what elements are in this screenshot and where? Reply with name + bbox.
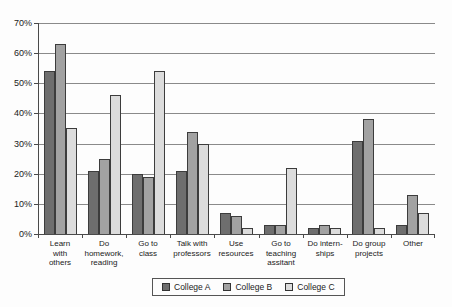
bar-college-a-learn-with-others bbox=[44, 71, 55, 234]
x-axis-label-use-resources: Useresources bbox=[211, 239, 261, 258]
legend-label: College C bbox=[297, 282, 334, 292]
x-axis-label-do-internships: Do intern-ships bbox=[300, 239, 350, 258]
x-axis-tick bbox=[170, 235, 171, 238]
bar-group-learn-with-others bbox=[38, 23, 82, 234]
x-axis-tick bbox=[303, 235, 304, 238]
bar-group-other bbox=[391, 23, 435, 234]
y-axis-tick-label: 40% bbox=[0, 109, 32, 118]
bar-college-c-go-to-teaching-assitant bbox=[286, 168, 297, 234]
x-axis-tick bbox=[347, 235, 348, 238]
bar-college-a-do-homework-reading bbox=[88, 171, 99, 234]
legend: College ACollege BCollege C bbox=[152, 278, 345, 296]
bar-college-c-learn-with-others bbox=[66, 128, 77, 234]
x-axis-tick bbox=[214, 235, 215, 238]
bar-college-b-other bbox=[407, 195, 418, 234]
y-axis-tick-label: 20% bbox=[0, 170, 32, 179]
legend-swatch-college-a bbox=[162, 283, 170, 291]
x-axis-label-other: Other bbox=[388, 239, 438, 249]
y-axis-tick-label: 70% bbox=[0, 19, 32, 28]
bar-college-c-do-internships bbox=[330, 228, 341, 234]
bar-group-go-to-teaching-assitant bbox=[259, 23, 303, 234]
bar-college-b-use-resources bbox=[231, 216, 242, 234]
x-axis-tick bbox=[259, 235, 260, 238]
bar-college-b-do-homework-reading bbox=[99, 159, 110, 234]
bar-college-c-do-group-projects bbox=[374, 228, 385, 234]
bar-group-talk-with-professors bbox=[170, 23, 214, 234]
x-axis-label-go-to-class: Go toclass bbox=[123, 239, 173, 258]
y-axis-tick bbox=[34, 113, 38, 114]
y-axis-tick-label: 30% bbox=[0, 140, 32, 149]
x-axis-tick bbox=[434, 235, 435, 238]
bar-chart-figure: 0%10%20%30%40%50%60%70%LearnwithothersDo… bbox=[0, 0, 452, 307]
legend-swatch-college-b bbox=[223, 283, 231, 291]
bar-college-b-learn-with-others bbox=[55, 44, 66, 234]
x-axis-label-talk-with-professors: Talk withprofessors bbox=[167, 239, 217, 258]
bar-group-do-internships bbox=[303, 23, 347, 234]
bar-college-b-do-internships bbox=[319, 225, 330, 234]
x-axis-label-do-group-projects: Do groupprojects bbox=[344, 239, 394, 258]
x-axis-tick bbox=[82, 235, 83, 238]
bar-college-b-talk-with-professors bbox=[187, 132, 198, 234]
legend-item-college-c: College C bbox=[285, 282, 334, 292]
y-axis-tick-label: 50% bbox=[0, 79, 32, 88]
bar-college-a-do-group-projects bbox=[352, 141, 363, 234]
legend-item-college-b: College B bbox=[223, 282, 272, 292]
y-axis-tick-label: 60% bbox=[0, 49, 32, 58]
legend-item-college-a: College A bbox=[162, 282, 210, 292]
y-axis-tick-label: 10% bbox=[0, 200, 32, 209]
bar-college-a-use-resources bbox=[220, 213, 231, 234]
x-axis-tick bbox=[391, 235, 392, 238]
bar-group-do-homework-reading bbox=[82, 23, 126, 234]
bar-group-go-to-class bbox=[126, 23, 170, 234]
x-axis-label-learn-with-others: Learnwithothers bbox=[35, 239, 85, 268]
y-axis-tick bbox=[34, 144, 38, 145]
bar-groups bbox=[38, 23, 435, 234]
legend-label: College B bbox=[235, 282, 272, 292]
x-axis-label-do-homework-reading: Dohomework,reading bbox=[79, 239, 129, 268]
bar-college-b-do-group-projects bbox=[363, 119, 374, 234]
bar-college-b-go-to-teaching-assitant bbox=[275, 225, 286, 234]
bar-college-c-go-to-class bbox=[154, 71, 165, 234]
x-axis-tick bbox=[126, 235, 127, 238]
bar-college-a-do-internships bbox=[308, 228, 319, 234]
y-axis-tick bbox=[34, 174, 38, 175]
legend-swatch-college-c bbox=[285, 283, 293, 291]
bar-group-use-resources bbox=[214, 23, 258, 234]
y-axis-tick-label: 0% bbox=[0, 230, 32, 239]
bar-college-a-other bbox=[396, 225, 407, 234]
y-axis-tick bbox=[34, 83, 38, 84]
bar-college-c-do-homework-reading bbox=[110, 95, 121, 234]
bar-college-a-go-to-class bbox=[132, 174, 143, 234]
bar-group-do-group-projects bbox=[347, 23, 391, 234]
bar-college-c-other bbox=[418, 213, 429, 234]
legend-label: College A bbox=[174, 282, 210, 292]
y-axis-tick bbox=[34, 204, 38, 205]
y-axis-tick bbox=[34, 53, 38, 54]
bar-college-a-talk-with-professors bbox=[176, 171, 187, 234]
bar-college-c-use-resources bbox=[242, 228, 253, 234]
x-axis-label-go-to-teaching-assitant: Go toteachingassitant bbox=[256, 239, 306, 268]
y-axis-tick bbox=[34, 23, 38, 24]
x-axis-line bbox=[38, 234, 435, 235]
bar-college-c-talk-with-professors bbox=[198, 144, 209, 234]
bar-college-b-go-to-class bbox=[143, 177, 154, 234]
bar-college-a-go-to-teaching-assitant bbox=[264, 225, 275, 234]
x-axis-tick bbox=[38, 235, 39, 238]
